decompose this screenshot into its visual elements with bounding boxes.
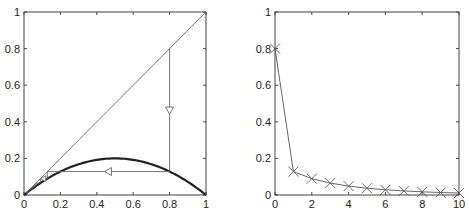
x-tick-label: 0 bbox=[21, 198, 27, 210]
x-tick-label: 0.8 bbox=[162, 198, 177, 210]
x-tick-label: 0.6 bbox=[126, 198, 141, 210]
y-tick-label: 0.6 bbox=[256, 79, 271, 91]
y-tick-label: 0 bbox=[265, 189, 271, 201]
x-tick-label: 0.2 bbox=[53, 198, 68, 210]
y-tick-label: 0.4 bbox=[5, 116, 20, 128]
y-tick-label: 0 bbox=[14, 189, 20, 201]
y-tick-label: 0.8 bbox=[5, 43, 20, 55]
left-arrow-icon bbox=[104, 168, 111, 176]
y-tick-label: 1 bbox=[265, 6, 271, 18]
x-tick-label: 0 bbox=[272, 198, 278, 210]
figure: 00.20.40.60.8100.20.40.60.81 024681000.2… bbox=[0, 0, 469, 218]
x-tick-label: 8 bbox=[419, 198, 425, 210]
data-point-marker bbox=[307, 174, 317, 184]
plot-frame bbox=[275, 12, 459, 195]
y-tick-label: 0.2 bbox=[256, 152, 271, 164]
y-tick-label: 1 bbox=[14, 6, 20, 18]
x-tick-label: 4 bbox=[346, 198, 352, 210]
x-tick-label: 2 bbox=[309, 198, 315, 210]
diagonal-line bbox=[24, 12, 206, 195]
down-arrow-icon bbox=[166, 107, 174, 114]
x-tick-label: 10 bbox=[453, 198, 465, 210]
data-point-marker bbox=[325, 178, 335, 188]
x-tick-label: 1 bbox=[203, 198, 209, 210]
series-line bbox=[275, 49, 459, 193]
y-tick-label: 0.2 bbox=[5, 152, 20, 164]
data-point-marker bbox=[288, 167, 298, 177]
y-tick-label: 0.6 bbox=[5, 79, 20, 91]
cobweb-plot: 00.20.40.60.8100.20.40.60.81 bbox=[5, 6, 209, 210]
y-tick-label: 0.4 bbox=[256, 116, 271, 128]
iteration-plot: 024681000.20.40.60.81 bbox=[256, 6, 465, 210]
x-tick-label: 6 bbox=[382, 198, 388, 210]
map-curve bbox=[24, 158, 206, 195]
x-tick-label: 0.4 bbox=[89, 198, 104, 210]
y-tick-label: 0.8 bbox=[256, 43, 271, 55]
